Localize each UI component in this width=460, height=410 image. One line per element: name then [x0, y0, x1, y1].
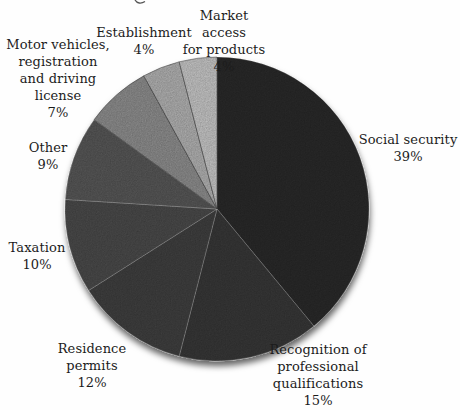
slice-label-motor-vehicles: Motor vehicles, registration and driving… [6, 36, 110, 121]
slice-label-text: permits [50, 357, 134, 374]
slice-percent: 4% [96, 41, 192, 58]
pie-chart-figure: Market access for products 4% Establishm… [0, 0, 460, 410]
slice-label-text: Residence [50, 340, 134, 357]
slice-label-text: qualifications [266, 375, 370, 392]
slice-label-text: Other [18, 139, 78, 156]
slice-label-text: Recognition of [266, 341, 370, 358]
slice-label-recognition-of-professional-qualifications: Recognition of professional qualificatio… [266, 341, 370, 409]
slice-label-text: professional [266, 358, 370, 375]
slice-label-text: Taxation [1, 239, 73, 256]
slice-percent: 39% [352, 148, 460, 165]
slice-label-other: Other 9% [18, 139, 78, 173]
slice-percent: 7% [6, 104, 110, 121]
slice-label-text: license [6, 87, 110, 104]
slice-percent: 15% [266, 392, 370, 409]
slice-percent: 4% [176, 58, 272, 75]
slice-percent: 9% [18, 156, 78, 173]
slice-label-residence-permits: Residence permits 12% [50, 340, 134, 391]
slice-label-text: Establishment [96, 24, 192, 41]
cropped-text-artifact [135, 0, 145, 3]
slice-label-text: Motor vehicles, [6, 36, 110, 53]
slice-label-text: Social security [352, 131, 460, 148]
slice-label-establishment: Establishment 4% [96, 24, 192, 58]
slice-percent: 12% [50, 374, 134, 391]
slice-percent: 10% [1, 256, 73, 273]
slice-label-taxation: Taxation 10% [1, 239, 73, 273]
slice-label-social-security: Social security 39% [352, 131, 460, 165]
slice-label-text: and driving [6, 70, 110, 87]
slice-label-text: registration [6, 53, 110, 70]
